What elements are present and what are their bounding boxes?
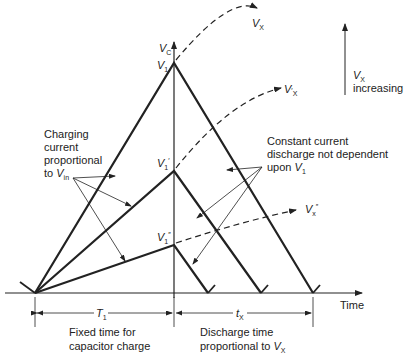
tx-left-arrowhead (176, 311, 182, 316)
interval-markers (35, 297, 313, 327)
svg-text:Fixed time for: Fixed time for (69, 326, 136, 338)
svg-text:proportional to VX: proportional to VX (200, 340, 286, 354)
vx-curve (176, 6, 257, 60)
vx-label: VX (252, 17, 264, 31)
discharge-arrows (193, 167, 262, 264)
start-tick (20, 282, 35, 293)
tx-caption: Discharge time proportional to VX (200, 326, 286, 354)
svg-text:capacitor charge: capacitor charge (69, 340, 150, 352)
svg-text:proportional: proportional (44, 154, 102, 166)
vx-increasing-label: VX (353, 69, 365, 83)
v1-double-prime-label: V1″ (157, 231, 171, 245)
t1-label: T1 (96, 307, 107, 321)
vc-axis-label: VC (159, 42, 171, 56)
vx-prime-label: V′X (284, 83, 298, 97)
v1-label: V1 (157, 59, 168, 73)
vx-prime-curve (176, 88, 281, 168)
svg-text:to Vin: to Vin (44, 167, 69, 181)
increasing-text: increasing (353, 82, 403, 94)
v1-prime-label: V1′ (157, 157, 170, 171)
svg-text:Discharge time: Discharge time (200, 326, 273, 338)
charging-note: Charging current proportional to Vin (44, 128, 102, 181)
discharge-note: Constant current discharge not dependent… (267, 135, 388, 175)
dual-slope-diagram: Time VC VX V′X Vx″ V1 V1′ V1″ VX increas… (0, 0, 406, 358)
time-axis-label: Time (340, 299, 364, 311)
svg-text:discharge not dependent: discharge not dependent (267, 148, 388, 160)
charging-arrows (73, 176, 131, 261)
svg-text:current: current (44, 141, 78, 153)
t1-caption: Fixed time for capacitor charge (69, 326, 150, 352)
tx-label: tX (236, 307, 244, 321)
vx-double-prime-curve (176, 210, 296, 243)
svg-text:upon V1: upon V1 (267, 161, 306, 175)
svg-text:Constant current: Constant current (267, 135, 348, 147)
vx-double-prime-label: Vx″ (305, 203, 319, 217)
svg-text:Charging: Charging (44, 128, 89, 140)
t1-left-arrowhead (37, 311, 43, 316)
